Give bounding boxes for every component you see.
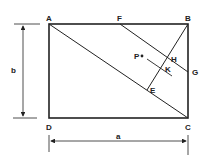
point-p <box>141 55 144 58</box>
dimension-a-label: a <box>116 132 121 141</box>
label-c: C <box>185 123 191 132</box>
label-d: D <box>46 123 52 132</box>
label-e: E <box>150 86 156 95</box>
label-h: H <box>171 55 177 64</box>
label-g: G <box>192 68 198 77</box>
label-b: B <box>185 14 191 23</box>
line-be <box>147 24 188 90</box>
label-f: F <box>117 14 122 23</box>
dimension-b-label: b <box>11 66 16 75</box>
label-p: P <box>134 52 140 61</box>
label-a: A <box>46 14 52 23</box>
line-fg <box>120 24 188 72</box>
geometry-diagram: A F B P H K G E D C b a <box>0 0 210 165</box>
label-k: K <box>165 65 171 74</box>
